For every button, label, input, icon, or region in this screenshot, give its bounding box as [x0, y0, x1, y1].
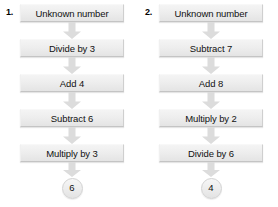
flowchart-2-result-circle: 4	[201, 178, 222, 199]
flowchart-1-chain: Unknown number Divide by 3 Add 4	[20, 4, 124, 199]
flowchart-1-step-4-label: Subtract 6	[51, 113, 93, 124]
flowchart-1-result: 6	[20, 177, 124, 199]
flowchart-2-step-5-label: Divide by 6	[188, 148, 234, 159]
flowchart-2-arrow-4	[159, 127, 263, 144]
flowchart-1-arrow-1	[20, 22, 124, 39]
flowchart-1-step-3-label: Add 4	[60, 78, 84, 89]
flowchart-2-step-2[interactable]: Subtract 7	[159, 39, 263, 57]
flowchart-1-step-1[interactable]: Unknown number	[20, 4, 124, 22]
flowchart-2-arrow-3	[159, 92, 263, 109]
flowchart-1-result-value: 6	[69, 183, 74, 193]
flowchart-1-arrow-4	[20, 127, 124, 144]
down-arrow-icon	[62, 162, 82, 177]
down-arrow-icon	[201, 127, 221, 144]
down-arrow-icon	[62, 57, 82, 74]
flowchart-1-step-3[interactable]: Add 4	[20, 74, 124, 92]
flowchart-page: 1. Unknown number Divide by 3 Add 4	[0, 0, 278, 207]
flowchart-2-result-value: 4	[208, 183, 213, 193]
flowchart-1-step-5[interactable]: Multiply by 3	[20, 144, 124, 162]
flowchart-2-step-5[interactable]: Divide by 6	[159, 144, 263, 162]
flowchart-2-step-4-label: Multiply by 2	[185, 113, 237, 124]
flowchart-2-arrow-1	[159, 22, 263, 39]
flowchart-1-step-2-label: Divide by 3	[49, 43, 95, 54]
down-arrow-icon	[201, 22, 221, 39]
flowchart-2-step-4[interactable]: Multiply by 2	[159, 109, 263, 127]
flowchart-1-number: 1.	[6, 6, 13, 18]
flowchart-1-result-circle: 6	[62, 178, 83, 199]
down-arrow-icon	[201, 92, 221, 109]
flowchart-2-step-1-label: Unknown number	[174, 8, 247, 19]
flowchart-1-step-1-label: Unknown number	[35, 8, 108, 19]
flowchart-2-step-3[interactable]: Add 8	[159, 74, 263, 92]
down-arrow-icon	[201, 162, 221, 177]
flowchart-1-step-5-label: Multiply by 3	[46, 148, 98, 159]
down-arrow-icon	[62, 127, 82, 144]
flowchart-1-arrow-2	[20, 57, 124, 74]
down-arrow-icon	[201, 57, 221, 74]
flowchart-1-step-4[interactable]: Subtract 6	[20, 109, 124, 127]
flowchart-2-step-3-label: Add 8	[199, 78, 223, 89]
flowchart-2-step-2-label: Subtract 7	[190, 43, 232, 54]
flowchart-2-result: 4	[159, 177, 263, 199]
down-arrow-icon	[62, 92, 82, 109]
flowchart-2-arrow-5	[159, 162, 263, 177]
flowchart-1-arrow-5	[20, 162, 124, 177]
flowchart-2-arrow-2	[159, 57, 263, 74]
flowchart-1-arrow-3	[20, 92, 124, 109]
flowchart-2-chain: Unknown number Subtract 7 Add 8	[159, 4, 263, 199]
flowchart-2-step-1[interactable]: Unknown number	[159, 4, 263, 22]
flowchart-1: 1. Unknown number Divide by 3 Add 4	[0, 0, 139, 207]
down-arrow-icon	[62, 22, 82, 39]
flowchart-2: 2. Unknown number Subtract 7 Add 8	[139, 0, 278, 207]
flowchart-2-number: 2.	[145, 6, 152, 18]
flowchart-1-step-2[interactable]: Divide by 3	[20, 39, 124, 57]
